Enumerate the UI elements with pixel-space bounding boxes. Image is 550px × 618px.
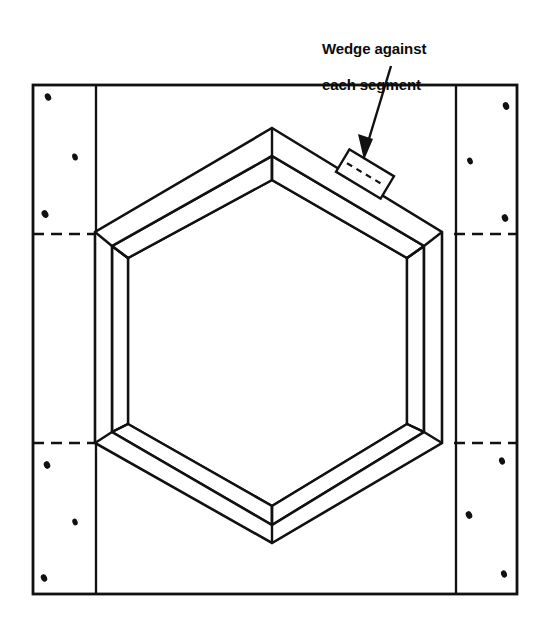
nail-mark — [71, 518, 78, 526]
nail-mark — [501, 213, 510, 223]
nail-mark — [44, 92, 53, 102]
callout-line-2: each segment — [322, 76, 512, 94]
nail-mark — [500, 570, 508, 579]
callout-line-1: Wedge against — [322, 40, 426, 57]
nail-mark — [71, 153, 79, 162]
nail-mark — [466, 157, 474, 166]
nail-mark — [40, 573, 49, 582]
nail-mark — [40, 209, 50, 219]
wedge-callout-label: Wedge against each segment — [322, 22, 512, 112]
technical-diagram: Wedge against each segment — [0, 0, 550, 618]
hex-inner-wall-left — [112, 246, 128, 432]
nail-mark — [465, 510, 474, 520]
hexagonal-form — [95, 128, 442, 543]
hex-inner-wall-right — [407, 246, 424, 432]
nail-mark — [43, 460, 52, 470]
nail-mark — [498, 457, 506, 466]
